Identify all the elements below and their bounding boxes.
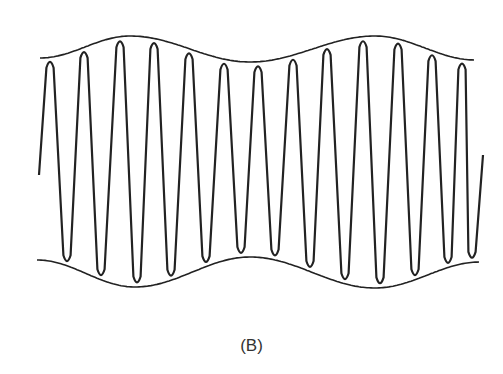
- carrier-wave: [39, 41, 483, 283]
- am-wave-diagram: [0, 0, 503, 374]
- upper-envelope-curve: [40, 36, 474, 62]
- figure-caption: (B): [0, 336, 503, 356]
